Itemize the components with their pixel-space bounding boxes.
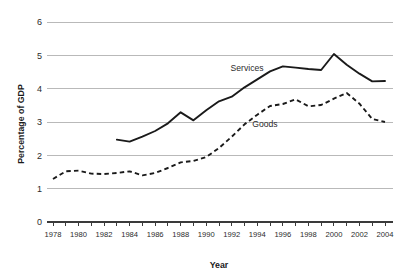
series-group (53, 54, 385, 179)
x-tick-label-2004: 2004 (377, 230, 394, 239)
x-tick-label-2000: 2000 (325, 230, 342, 239)
x-tick-label-2002: 2002 (351, 230, 368, 239)
y-tick-label-0: 0 (37, 217, 42, 227)
x-tick-labels-group: 1978198019821984198619881990199219941996… (45, 230, 394, 239)
x-tick-label-1998: 1998 (300, 230, 317, 239)
gridlines-group (47, 22, 393, 189)
x-axis-title: Year (210, 260, 229, 270)
y-tick-labels-group: 0123456 (37, 17, 42, 227)
x-tick-label-1988: 1988 (172, 230, 189, 239)
x-tick-label-1982: 1982 (96, 230, 113, 239)
chart-container: 0123456 19781980198219841986198819901992… (0, 0, 411, 278)
series-label-goods: Goods (252, 119, 277, 129)
x-tick-label-1984: 1984 (121, 230, 138, 239)
series-label-services: Services (231, 63, 264, 73)
y-axis-title: Percentage of GDP (16, 84, 26, 164)
y-tick-label-6: 6 (37, 17, 42, 27)
y-tick-label-1: 1 (37, 184, 42, 194)
x-tick-label-1996: 1996 (274, 230, 291, 239)
x-tick-label-1994: 1994 (249, 230, 266, 239)
line-chart: 0123456 19781980198219841986198819901992… (0, 0, 411, 278)
x-axis-group (47, 222, 393, 226)
y-tick-label-5: 5 (37, 51, 42, 61)
y-tick-label-2: 2 (37, 151, 42, 161)
x-tick-label-1980: 1980 (70, 230, 87, 239)
x-tick-label-1986: 1986 (147, 230, 164, 239)
x-tick-label-1992: 1992 (223, 230, 240, 239)
x-tick-label-1978: 1978 (45, 230, 62, 239)
y-tick-label-3: 3 (37, 117, 42, 127)
x-tick-label-1990: 1990 (198, 230, 215, 239)
series-line-goods (53, 93, 385, 179)
series-annotations-group: ServicesGoods (231, 63, 278, 129)
y-tick-label-4: 4 (37, 84, 42, 94)
